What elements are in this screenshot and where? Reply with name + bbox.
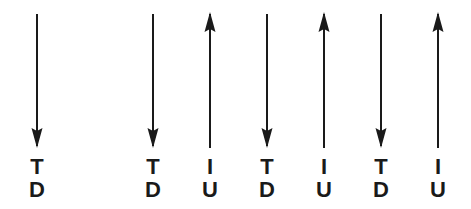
arrow-label-top: T — [131, 156, 175, 179]
arrow-item: TD — [245, 0, 289, 209]
arrow-label-bottom: D — [245, 179, 289, 202]
arrow-label-stack: TD — [131, 156, 175, 202]
arrow-label-top: T — [15, 156, 59, 179]
arrow-label-stack: TD — [245, 156, 289, 202]
arrow-label-bottom: U — [188, 179, 232, 202]
arrow-label-bottom: D — [131, 179, 175, 202]
arrow-label-bottom: U — [416, 179, 460, 202]
arrow-item: IU — [302, 0, 346, 209]
arrow-diagram: TDTDIUTDIUTDIU — [0, 0, 471, 209]
arrow-label-stack: IU — [416, 156, 460, 202]
arrow-label-stack: IU — [302, 156, 346, 202]
arrow-label-bottom: U — [302, 179, 346, 202]
arrow-item: TD — [15, 0, 59, 209]
arrow-item: TD — [131, 0, 175, 209]
arrow-label-top: I — [302, 156, 346, 179]
arrow-label-stack: IU — [188, 156, 232, 202]
arrow-label-bottom: D — [15, 179, 59, 202]
arrow-label-bottom: D — [359, 179, 403, 202]
arrow-label-stack: TD — [359, 156, 403, 202]
arrow-label-stack: TD — [15, 156, 59, 202]
arrow-item: IU — [188, 0, 232, 209]
arrow-label-top: T — [245, 156, 289, 179]
arrow-label-top: I — [188, 156, 232, 179]
arrow-item: TD — [359, 0, 403, 209]
arrow-label-top: T — [359, 156, 403, 179]
arrow-item: IU — [416, 0, 460, 209]
arrow-label-top: I — [416, 156, 460, 179]
